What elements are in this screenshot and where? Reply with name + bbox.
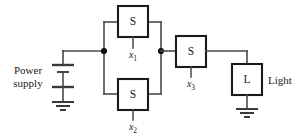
switch-x3-symbol: S [188,45,194,57]
light-label: Light [268,74,292,86]
power-supply-label-line2: supply [13,77,43,89]
circuit-schematic-svg: Power supply S x1 [0,0,302,136]
switch-x2-group: S x2 [118,79,148,135]
switch-x2-symbol: S [130,88,136,100]
switch-x3-subscript: 3 [191,83,195,92]
lamp-group: L [206,51,262,117]
ground-symbol-battery [52,102,74,110]
switch-x2-label: x2 [128,121,137,135]
switch-x3-group: S x3 [161,36,206,92]
ground-symbol-lamp [236,109,258,117]
switch-x1-symbol: S [130,15,136,27]
switch-x1-label: x1 [128,49,137,63]
switch-x3-label: x3 [186,78,195,92]
switch-x2-subscript: 2 [133,126,137,135]
power-supply-label-line1: Power [14,64,42,76]
switch-x1-subscript: 1 [133,54,137,63]
lamp-symbol: L [243,73,250,85]
circuit-diagram: Power supply S x1 [0,0,302,136]
switch-x1-group: S x1 [118,6,148,63]
power-supply-group [52,51,104,110]
junction-dot-left [101,48,107,54]
